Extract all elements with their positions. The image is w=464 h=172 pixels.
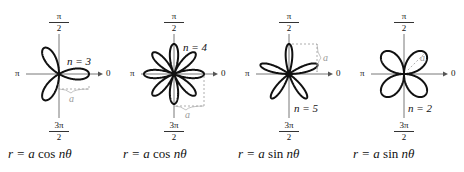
equation-label: r = a sin nθ: [238, 146, 299, 162]
axis-label-3pi-over-2: 3π2: [164, 121, 184, 142]
axis-label-3pi-over-2: 3π2: [279, 121, 299, 142]
axis-label-pi: π: [245, 69, 250, 78]
axis-label-pi: π: [130, 69, 135, 78]
axis-label-zero: 0: [451, 69, 456, 78]
amplitude-a-label: a: [420, 53, 425, 63]
amplitude-a-label: a: [323, 53, 328, 63]
equation-label: r = a cos nθ: [8, 146, 72, 162]
n-value-label: n = 2: [408, 103, 432, 114]
rose-panel-cos-n4: π2 π 0 3π2 n = 4 a r = a cos nθ: [115, 0, 231, 172]
amplitude-a-label: a: [185, 110, 190, 120]
n-value-label: n = 4: [183, 42, 207, 53]
axis-label-pi: π: [360, 69, 365, 78]
equation-label: r = a cos nθ: [123, 146, 187, 162]
rose-panel-sin-n5: π2 π 0 3π2 n = 5 a r = a sin nθ: [230, 0, 346, 172]
amplitude-a-label: a: [69, 94, 74, 104]
axis-label-zero: 0: [106, 69, 111, 78]
n-value-label: n = 3: [67, 56, 91, 67]
rose-panel-cos-n3: π2 π 0 3π2 n = 3 a r = a cos nθ: [0, 0, 116, 172]
axis-label-pi-over-2: π2: [279, 12, 299, 33]
axis-label-zero: 0: [221, 69, 226, 78]
axis-label-pi-over-2: π2: [49, 12, 69, 33]
axis-label-pi-over-2: π2: [164, 12, 184, 33]
equation-label: r = a sin nθ: [353, 146, 414, 162]
axis-label-zero: 0: [336, 69, 341, 78]
axis-label-pi-over-2: π2: [394, 12, 414, 33]
axis-label-3pi-over-2: 3π2: [49, 121, 69, 142]
rose-panel-sin-n2: π2 π 0 3π2 n = 2 a r = a sin nθ: [345, 0, 461, 172]
n-value-label: n = 5: [294, 103, 318, 114]
axis-label-3pi-over-2: 3π2: [394, 121, 414, 142]
axis-label-pi: π: [15, 69, 20, 78]
